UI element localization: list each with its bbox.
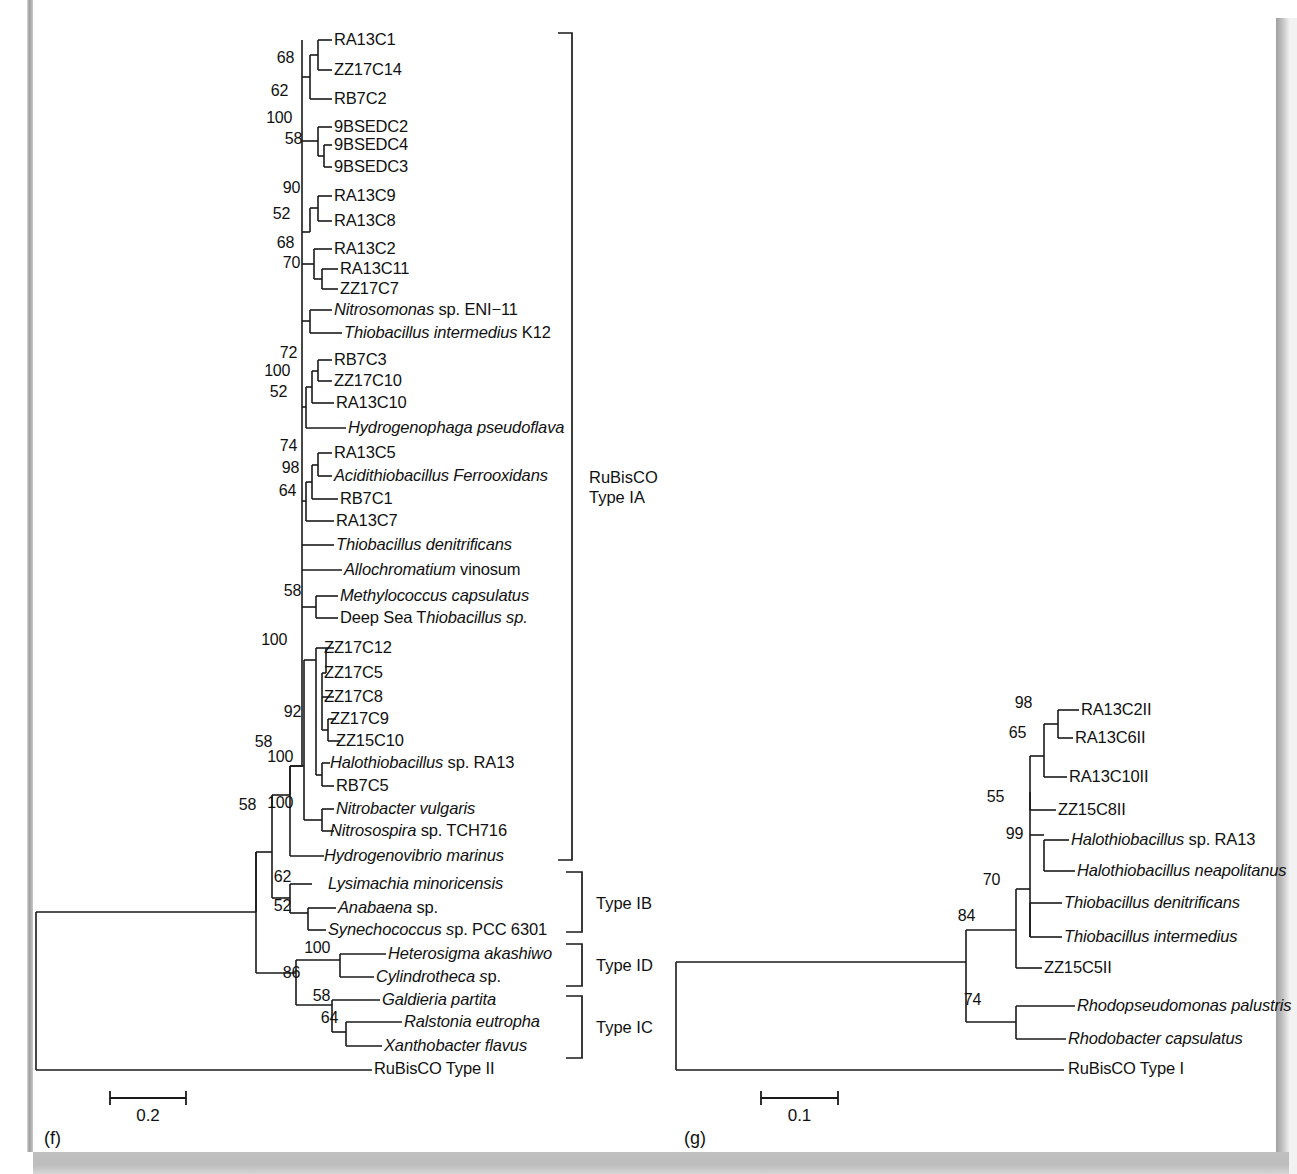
bootstrap-value: 70	[966, 872, 1000, 887]
page-edge-shadow-bottom	[33, 1152, 1289, 1174]
tree-leaf-label: Halothiobacillus sp. RA13	[1071, 831, 1255, 847]
bootstrap-value: 100	[296, 940, 330, 955]
bootstrap-value: 58	[222, 797, 256, 812]
bootstrap-value: 52	[253, 384, 287, 399]
tree-leaf-label: ZZ17C7	[340, 280, 399, 296]
bootstrap-value: 84	[941, 908, 975, 923]
group-label-line2: Type IA	[589, 487, 658, 507]
tree-leaf-label: RuBisCO Type II	[374, 1060, 494, 1076]
tree-leaf-label: Thiobacillus intermedius	[1064, 928, 1237, 944]
tree-leaf-label: Acidithiobacillus Ferrooxidans	[334, 467, 548, 483]
tree-leaf-label: RuBisCO Type I	[1068, 1060, 1184, 1076]
group-label: RuBisCOType IA	[589, 467, 658, 507]
group-label: Type IB	[596, 893, 652, 913]
tree-leaf-label: ZZ17C12	[324, 639, 392, 655]
bootstrap-value: 98	[998, 695, 1032, 710]
tree-leaf-label: RA13C5	[334, 444, 395, 460]
tree-leaf-label: Galdieria partita	[382, 991, 496, 1007]
bootstrap-value: 64	[304, 1010, 338, 1025]
tree-leaf-label: Rhodopseudomonas palustris	[1077, 997, 1291, 1013]
tree-leaf-label: Heterosigma akashiwo	[388, 945, 552, 961]
tree-leaf-label: ZZ17C10	[334, 372, 402, 388]
bootstrap-value: 68	[260, 50, 294, 65]
bootstrap-value: 68	[260, 235, 294, 250]
tree-leaf-label: ZZ15C10	[336, 732, 404, 748]
tree-leaf-label: Hydrogenovibrio marinus	[324, 847, 504, 863]
tree-leaf-label: Allochromatium vinosum	[344, 561, 520, 577]
tree-leaf-label: Xanthobacter flavus	[384, 1037, 527, 1053]
tree-g-branches	[676, 710, 1079, 1070]
bootstrap-value: 100	[256, 363, 290, 378]
bootstrap-value: 52	[256, 206, 290, 221]
tree-leaf-label: Thiobacillus denitrificans	[1064, 894, 1240, 910]
tree-leaf-label: Halothiobacillus sp. RA13	[330, 754, 514, 770]
tree-leaf-label: 9BSEDC4	[334, 136, 408, 152]
group-label-line1: RuBisCO	[589, 467, 658, 487]
group-label: Type IC	[596, 1017, 653, 1037]
tree-leaf-label: RA13C8	[334, 212, 395, 228]
tree-leaf-label: Halothiobacillus neapolitanus	[1077, 862, 1286, 878]
tree-leaf-label: ZZ17C5	[324, 664, 383, 680]
tree-leaf-label: RB7C3	[334, 351, 386, 367]
scale-bar-f-label: 0.2	[110, 1106, 186, 1126]
tree-leaf-label: Lysimachia minoricensis	[328, 875, 503, 891]
bootstrap-value: 100	[259, 795, 293, 810]
tree-leaf-label: ZZ15C8II	[1058, 801, 1126, 817]
tree-leaf-label: RB7C5	[336, 777, 388, 793]
bootstrap-value: 58	[268, 131, 302, 146]
panel-label-g: (g)	[684, 1128, 706, 1149]
bootstrap-value: 86	[266, 965, 300, 980]
bootstrap-value: 64	[262, 483, 296, 498]
tree-leaf-label: Anabaena sp.	[338, 899, 438, 915]
bootstrap-value: 92	[267, 704, 301, 719]
tree-leaf-label: Cylindrotheca sp.	[376, 968, 501, 984]
bootstrap-value: 55	[970, 789, 1004, 804]
scale-bar-g	[761, 1091, 838, 1105]
bootstrap-value: 99	[989, 826, 1023, 841]
bootstrap-value: 72	[263, 345, 297, 360]
tree-leaf-label: RA13C2	[334, 240, 395, 256]
bootstrap-value: 65	[992, 725, 1026, 740]
tree-leaf-label: Rhodobacter capsulatus	[1068, 1030, 1243, 1046]
tree-leaf-label: 9BSEDC3	[334, 158, 408, 174]
bootstrap-value: 58	[238, 734, 272, 749]
tree-leaf-label: Methylococcus capsulatus	[340, 587, 529, 603]
tree-leaf-label: 9BSEDC2	[334, 118, 408, 134]
tree-leaf-label: RA13C10	[336, 394, 407, 410]
tree-leaf-label: RA13C1	[334, 31, 395, 47]
tree-leaf-label: ZZ17C8	[324, 688, 383, 704]
tree-leaf-label: Nitrobacter vulgaris	[336, 800, 475, 816]
tree-leaf-label: RA13C2II	[1081, 701, 1151, 717]
tree-leaf-label: Hydrogenophaga pseudoflava	[348, 419, 564, 435]
group-label: Type ID	[596, 955, 653, 975]
tree-leaf-label: ZZ17C14	[334, 61, 402, 77]
tree-leaf-label: Ralstonia eutropha	[404, 1013, 540, 1029]
bootstrap-value: 58	[296, 988, 330, 1003]
scale-bar-g-label: 0.1	[761, 1106, 838, 1126]
tree-leaf-label: Synechococcus sp. PCC 6301	[328, 921, 547, 937]
tree-leaf-label: RB7C2	[334, 90, 386, 106]
bootstrap-value: 74	[947, 992, 981, 1007]
tree-leaf-label: RA13C7	[336, 512, 397, 528]
tree-leaf-label: RB7C1	[340, 490, 392, 506]
tree-leaf-label: Thiobacillus denitrificans	[336, 536, 512, 552]
bootstrap-value: 100	[253, 632, 287, 647]
bootstrap-value: 98	[265, 460, 299, 475]
bootstrap-value: 90	[266, 180, 300, 195]
phylogenetic-tree-g	[0, 0, 1297, 1152]
tree-leaf-label: RA13C6II	[1075, 729, 1145, 745]
panel-label-f: (f)	[44, 1128, 61, 1149]
tree-leaf-label: Thiobacillus intermedius K12	[344, 324, 551, 340]
bootstrap-value: 52	[257, 898, 291, 913]
bootstrap-value: 58	[267, 583, 301, 598]
tree-leaf-label: Deep Sea Thiobacillus sp.	[340, 609, 528, 625]
tree-leaf-label: RA13C10II	[1069, 768, 1148, 784]
tree-leaf-label: RA13C11	[340, 260, 409, 276]
bootstrap-value: 62	[254, 83, 288, 98]
tree-leaf-label: ZZ15C5II	[1044, 959, 1112, 975]
bootstrap-value: 74	[263, 438, 297, 453]
tree-leaf-label: Nitrosomonas sp. ENI−11	[334, 301, 518, 317]
figure-canvas: RA13C1ZZ17C14RB7C29BSEDC29BSEDC49BSEDC3R…	[0, 0, 1297, 1174]
tree-leaf-label: ZZ17C9	[330, 710, 389, 726]
tree-leaf-label: Nitrosospira sp. TCH716	[330, 822, 507, 838]
